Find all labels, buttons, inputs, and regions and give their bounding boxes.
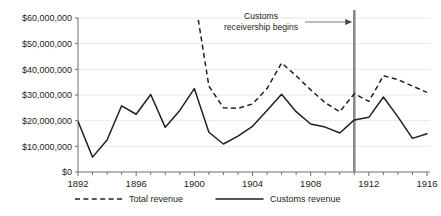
x-axis-tick-labels: 1892189619001904190819121916 bbox=[67, 178, 437, 189]
y-axis-tick-label: $10,000,000 bbox=[22, 142, 72, 152]
x-axis-tick-label: 1896 bbox=[126, 178, 147, 189]
gridlines bbox=[78, 18, 430, 146]
y-axis-tick-labels: $0$10,000,000$20,000,000$30,000,000$40,0… bbox=[22, 13, 78, 177]
annotation-arrow-head bbox=[345, 19, 352, 25]
x-axis-tick-label: 1908 bbox=[300, 178, 321, 189]
x-axis-tick-label: 1900 bbox=[184, 178, 205, 189]
chart-legend: Total revenueCustoms revenue bbox=[75, 194, 341, 204]
chart-canvas: $0$10,000,000$20,000,000$30,000,000$40,0… bbox=[0, 0, 441, 216]
y-axis-tick-label: $50,000,000 bbox=[22, 39, 72, 49]
x-axis-tick-label: 1904 bbox=[242, 178, 263, 189]
x-axis-tick-label: 1892 bbox=[67, 178, 88, 189]
annotation-line-1: Customs bbox=[244, 11, 278, 21]
y-axis-tick-label: $40,000,000 bbox=[22, 65, 72, 75]
legend-label-customs-revenue: Customs revenue bbox=[270, 194, 341, 204]
annotation-line-2: receivership begins bbox=[224, 22, 298, 32]
y-axis-tick-label: $20,000,000 bbox=[22, 116, 72, 126]
y-axis-tick-label: $30,000,000 bbox=[22, 90, 72, 100]
x-axis-ticks bbox=[78, 172, 427, 176]
revenue-line-chart: $0$10,000,000$20,000,000$30,000,000$40,0… bbox=[0, 0, 441, 216]
legend-label-total-revenue: Total revenue bbox=[129, 194, 183, 204]
customs-receivership-annotation: Customsreceivership begins bbox=[224, 11, 352, 32]
x-axis-tick-label: 1916 bbox=[416, 178, 437, 189]
x-axis-tick-label: 1912 bbox=[358, 178, 379, 189]
y-axis-tick-label: $60,000,000 bbox=[22, 13, 72, 23]
y-axis-tick-label: $0 bbox=[62, 167, 72, 177]
